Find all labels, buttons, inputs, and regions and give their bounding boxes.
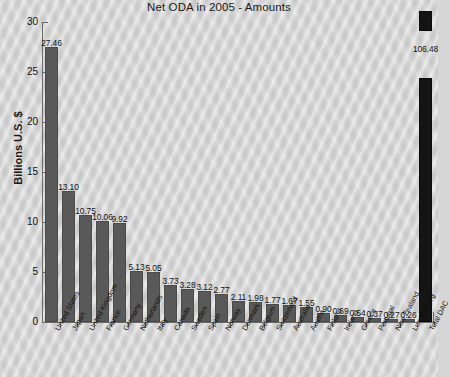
bar-slot bbox=[196, 22, 213, 322]
y-axis-tick-label: 15 bbox=[0, 166, 38, 177]
bar-slot bbox=[400, 22, 417, 322]
bar-slot bbox=[247, 22, 264, 322]
x-axis-line bbox=[42, 322, 434, 323]
y-axis-tick-label: 5 bbox=[0, 266, 38, 277]
bar[interactable] bbox=[164, 285, 177, 322]
bar-slot bbox=[332, 22, 349, 322]
bar-slot bbox=[366, 22, 383, 322]
chart-title: Net ODA in 2005 - Amounts bbox=[0, 1, 438, 13]
y-axis-tick-label: 10 bbox=[0, 216, 38, 227]
bar-slot bbox=[315, 22, 332, 322]
bar-slot bbox=[417, 22, 434, 322]
bar[interactable] bbox=[79, 215, 92, 323]
bar-slot bbox=[298, 22, 315, 322]
bar-slot bbox=[94, 22, 111, 322]
bar-slot bbox=[60, 22, 77, 322]
y-axis-title: Billions U.S. $ bbox=[12, 78, 24, 218]
bar-value-label: 9.92 bbox=[97, 214, 143, 224]
bar-value-label: 13.10 bbox=[46, 182, 92, 192]
bar-value-label: 106.48 bbox=[403, 44, 449, 54]
bar-slot bbox=[349, 22, 366, 322]
y-axis-tick-label: 0 bbox=[0, 316, 38, 327]
bar-slot bbox=[213, 22, 230, 322]
bar-overflow-stub bbox=[419, 11, 432, 31]
bar-slot bbox=[111, 22, 128, 322]
y-axis-tick-label: 25 bbox=[0, 66, 38, 77]
bar-slot bbox=[383, 22, 400, 322]
plot-area bbox=[43, 22, 434, 322]
bar-slot bbox=[128, 22, 145, 322]
y-axis-tick-label: 30 bbox=[0, 16, 38, 27]
bar-value-label: 0.26 bbox=[386, 310, 432, 320]
bar-slot bbox=[43, 22, 60, 322]
bar[interactable] bbox=[419, 78, 432, 322]
bar-slot bbox=[264, 22, 281, 322]
bar-slot bbox=[281, 22, 298, 322]
bar-value-label: 27.46 bbox=[29, 38, 75, 48]
y-axis-tick-label: 20 bbox=[0, 116, 38, 127]
y-axis-tick bbox=[42, 322, 48, 323]
bar-slot bbox=[77, 22, 94, 322]
bar-slot bbox=[230, 22, 247, 322]
bar-value-label: 5.05 bbox=[131, 263, 177, 273]
